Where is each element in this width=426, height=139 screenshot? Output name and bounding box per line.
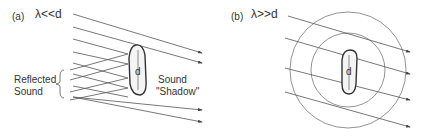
diagram-canvas bbox=[0, 0, 426, 139]
shadow-label-1: Sound bbox=[158, 74, 187, 85]
reflected-label-2: Sound bbox=[14, 86, 43, 97]
panel-b-label: (b) bbox=[231, 11, 243, 22]
reflected-bracket bbox=[56, 70, 64, 98]
shadow-label-2: "Shadow" bbox=[156, 86, 199, 97]
panel-a-reflected-rays bbox=[70, 54, 128, 100]
panel-a-label: (a) bbox=[12, 11, 24, 22]
panel-a-d-label: d bbox=[135, 66, 141, 77]
panel-a-condition: λ<<d bbox=[35, 9, 62, 20]
panel-b-d-label: d bbox=[346, 66, 352, 77]
reflected-label-1: Reflected bbox=[14, 74, 56, 85]
panel-b-condition: λ>>d bbox=[251, 9, 278, 20]
